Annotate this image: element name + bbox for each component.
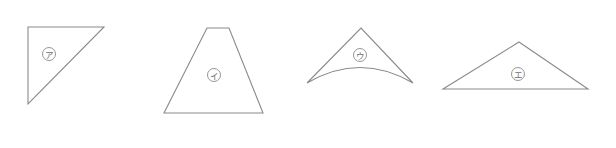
- shapes-figure: ア イ ウ エ: [0, 0, 616, 148]
- shape-label-u: ウ: [356, 51, 365, 61]
- right-triangle-shape: [28, 27, 104, 104]
- shape-i: イ: [164, 28, 263, 113]
- shape-label-a: ア: [45, 50, 54, 60]
- shape-u: ウ: [307, 28, 413, 83]
- shape-a: ア: [28, 27, 104, 104]
- obtuse-triangle-shape: [443, 42, 588, 89]
- shape-e: エ: [443, 42, 588, 89]
- shape-label-i: イ: [210, 71, 219, 81]
- shape-label-e: エ: [514, 70, 523, 80]
